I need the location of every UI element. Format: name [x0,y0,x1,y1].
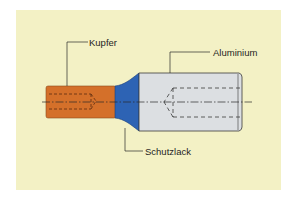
leader-line-coating [125,128,143,151]
label-coating: Schutzlack [145,146,191,157]
connector-diagram: Kupfer Aluminium Schutzlack [0,0,292,204]
leader-line-copper [67,42,88,86]
label-aluminium: Aluminium [213,47,257,58]
label-copper: Kupfer [89,37,117,48]
leader-line-aluminium [170,52,210,73]
